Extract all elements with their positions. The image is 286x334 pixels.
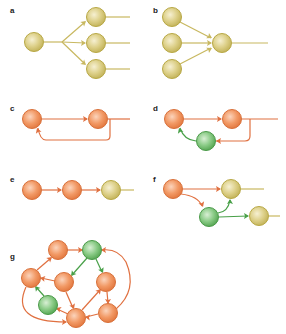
- neuron-node-yellow-b2: [163, 34, 182, 53]
- neuron-node-orange-c2: [89, 110, 108, 129]
- neuron-node-green-g6: [39, 296, 58, 315]
- neuron-node-yellow-b0: [213, 34, 232, 53]
- edge-b-7: [180, 22, 211, 38]
- neuron-node-orange-c1: [23, 110, 42, 129]
- neuron-node-orange-d2: [223, 110, 242, 129]
- neuron-node-orange-g7: [67, 309, 86, 328]
- panel-label-e: e: [10, 175, 14, 184]
- panel-label-g: g: [10, 252, 15, 261]
- synapse-arrowhead-icon: [227, 199, 233, 204]
- neuron-node-green-f3: [200, 208, 219, 227]
- neuron-node-orange-g1: [49, 241, 68, 260]
- edge-g-28: [37, 258, 51, 270]
- neuron-node-yellow-a3: [87, 60, 106, 79]
- panel-label-f: f: [153, 175, 156, 184]
- neuron-node-orange-g3: [22, 269, 41, 288]
- edge-f-25: [219, 216, 248, 217]
- synapse-arrowhead-icon: [206, 45, 213, 53]
- neuron-node-orange-d1: [165, 110, 184, 129]
- neuron-node-yellow-b3: [163, 60, 182, 79]
- neuron-node-orange-e2: [63, 181, 82, 200]
- neuron-node-orange-g5: [97, 273, 116, 292]
- neuron-node-orange-e1: [23, 181, 42, 200]
- neuron-node-green-g2: [83, 241, 102, 260]
- neuron-node-yellow-a0: [25, 33, 44, 52]
- edge-a-2: [62, 42, 85, 43]
- neuron-node-yellow-b1: [163, 8, 182, 27]
- neuron-node-orange-g8: [99, 304, 118, 323]
- edge-g-34: [82, 290, 100, 310]
- edge-g-29: [72, 258, 87, 275]
- neuron-node-yellow-f4: [250, 207, 269, 226]
- neuron-node-yellow-f2: [222, 180, 241, 199]
- edge-f-24: [218, 200, 230, 213]
- synapse-arrowhead-icon: [206, 33, 213, 41]
- edge-f-23: [181, 194, 202, 206]
- edge-a-1: [62, 22, 85, 42]
- edge-d-17: [180, 128, 196, 141]
- neuron-node-yellow-e3: [102, 181, 121, 200]
- nodes-layer: [22, 8, 269, 328]
- neuron-node-orange-g4: [55, 273, 74, 292]
- edge-b-9: [180, 48, 211, 64]
- panel-label-a: a: [10, 6, 14, 15]
- panel-label-b: b: [153, 6, 158, 15]
- panel-label-d: d: [153, 104, 158, 113]
- panel-label-c: c: [10, 104, 14, 113]
- neuron-node-yellow-a2: [87, 34, 106, 53]
- neuron-node-green-d3: [197, 132, 216, 151]
- neuron-node-yellow-a1: [87, 8, 106, 27]
- network-motifs-figure: [0, 0, 286, 334]
- neuron-node-orange-f1: [164, 180, 183, 199]
